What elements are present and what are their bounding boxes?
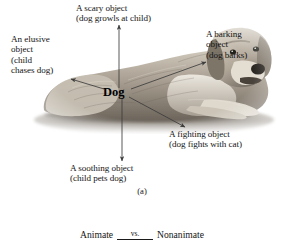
label-scary-object: A scary object (dog growls at child) — [76, 3, 151, 24]
label-fighting-object: A fighting object (dog fights with cat) — [169, 129, 242, 150]
label-elusive-line2: object — [11, 44, 33, 54]
label-barking-line2: object — [206, 39, 228, 49]
label-scary-line2: (dog growls at child) — [76, 13, 151, 23]
term-nonanimate: Nonanimate — [157, 229, 204, 240]
label-elusive-line4: chases dog) — [11, 65, 53, 75]
relation-line — [117, 239, 153, 240]
figure-container: A scary object (dog growls at child) An … — [0, 0, 284, 246]
panel-b: Animate vs. Nonanimate — [0, 200, 284, 246]
label-elusive-line1: An elusive — [11, 34, 50, 44]
label-fighting-line1: A fighting object — [169, 129, 230, 139]
caption-panel-a: (a) — [0, 186, 284, 196]
term-animate: Animate — [80, 229, 113, 240]
label-fighting-line2: (dog fights with cat) — [169, 139, 242, 149]
label-barking-line1: A barking — [206, 29, 242, 39]
relation-label: vs. — [131, 230, 140, 238]
panel-a: A scary object (dog growls at child) An … — [0, 0, 284, 200]
label-scary-line1: A scary object — [76, 3, 127, 13]
label-elusive-line3: (child — [11, 55, 32, 65]
animate-vs-nonanimate-row: Animate vs. Nonanimate — [0, 229, 284, 240]
label-soothing-object: A soothing object (child pets dog) — [70, 163, 133, 184]
relation-vs: vs. — [117, 230, 153, 240]
label-soothing-line1: A soothing object — [70, 163, 133, 173]
label-dog-center: Dog — [103, 86, 125, 99]
label-elusive-object: An elusive object (child chases dog) — [11, 34, 53, 76]
label-barking-object: A barking object (dog barks) — [206, 29, 247, 60]
label-barking-line3: (dog barks) — [206, 50, 247, 60]
label-soothing-line2: (child pets dog) — [70, 173, 126, 183]
